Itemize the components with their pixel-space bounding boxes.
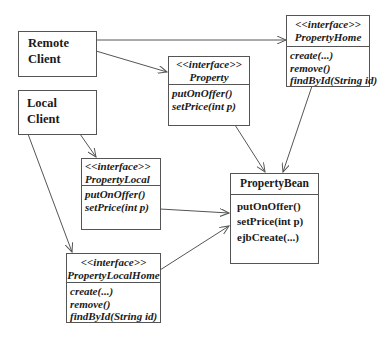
edge-propertyhome-to-bean <box>283 86 312 172</box>
property-op: putOnOffer() <box>172 87 249 100</box>
edge-local-to-propertylocalhome <box>28 134 72 252</box>
propertyhome-interface-box: <<interface>> PropertyHome create(...) r… <box>286 15 370 87</box>
propertylocalhome-header: <<interface>> PropertyLocalHome <box>67 254 160 283</box>
propertyhome-name: PropertyHome <box>287 31 369 44</box>
propertybean-class-box: PropertyBean putOnOffer() setPrice(int p… <box>230 173 319 264</box>
local-client-box: Local Client <box>18 90 97 135</box>
propertylocalhome-op: findById(String id) <box>70 310 160 323</box>
property-operations: putOnOffer() setPrice(int p) <box>169 85 249 112</box>
remote-client-line1: Remote <box>28 35 69 51</box>
propertyhome-op: create(...) <box>290 49 369 62</box>
local-client-label: Local Client <box>27 95 60 127</box>
property-header: <<interface>> Property <box>169 57 249 85</box>
propertybean-op: putOnOffer() <box>237 199 318 214</box>
propertybean-operations: putOnOffer() setPrice(int p) ejbCreate(.… <box>231 195 318 245</box>
propertyhome-header: <<interface>> PropertyHome <box>287 16 369 47</box>
propertylocal-operations: putOnOffer() setPrice(int p) <box>82 186 160 213</box>
propertyhome-op: remove() <box>290 62 369 75</box>
local-client-line1: Local <box>27 95 60 111</box>
property-interface-box: <<interface>> Property putOnOffer() setP… <box>168 56 250 126</box>
propertylocalhome-operations: create(...) remove() findById(String id) <box>67 283 160 323</box>
propertylocal-header: <<interface>> PropertyLocal <box>82 159 160 186</box>
remote-client-line2: Client <box>28 51 69 67</box>
edge-propertylocalhome-to-bean <box>160 226 229 270</box>
propertylocalhome-interface-box: <<interface>> PropertyLocalHome create(.… <box>66 253 161 323</box>
propertybean-op: setPrice(int p) <box>237 214 318 229</box>
uml-diagram: Remote Client Local Client <<interface>>… <box>0 0 386 342</box>
propertylocalhome-op: create(...) <box>70 285 160 298</box>
propertyhome-operations: create(...) remove() findById(String id) <box>287 47 369 87</box>
propertylocalhome-name: PropertyLocalHome <box>67 269 160 282</box>
local-client-line2: Client <box>27 111 60 127</box>
edge-remote-to-property <box>96 51 167 72</box>
property-op: setPrice(int p) <box>172 100 249 113</box>
propertyhome-op: findById(String id) <box>290 74 369 87</box>
edge-property-to-bean <box>235 125 265 172</box>
propertylocal-stereotype: <<interface>> <box>85 160 160 173</box>
remote-client-box: Remote Client <box>18 31 97 77</box>
propertybean-op: ejbCreate(...) <box>237 230 318 245</box>
propertylocal-op: setPrice(int p) <box>85 201 160 214</box>
edge-local-to-propertylocal <box>80 134 96 157</box>
property-name: Property <box>169 71 249 84</box>
propertybean-name: PropertyBean <box>231 174 318 193</box>
property-stereotype: <<interface>> <box>169 58 249 71</box>
propertylocal-op: putOnOffer() <box>85 188 160 201</box>
propertyhome-stereotype: <<interface>> <box>287 18 369 31</box>
edge-propertylocal-to-bean <box>160 209 229 213</box>
propertylocalhome-stereotype: <<interface>> <box>67 256 160 269</box>
remote-client-label: Remote Client <box>28 35 69 67</box>
propertylocalhome-op: remove() <box>70 298 160 311</box>
propertybean-header: PropertyBean <box>231 174 318 195</box>
propertylocal-interface-box: <<interface>> PropertyLocal putOnOffer()… <box>81 158 161 230</box>
propertylocal-name: PropertyLocal <box>85 173 160 186</box>
